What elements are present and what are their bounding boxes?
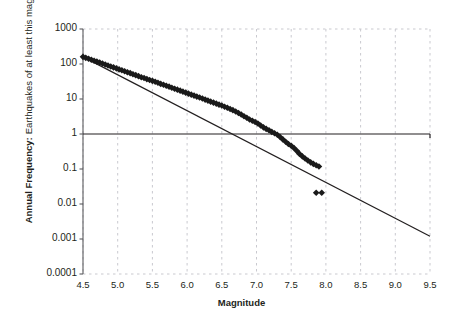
gridlines (83, 29, 430, 274)
plot-canvas (0, 0, 455, 319)
earthquake-frequency-magnitude-chart: Annual Frequency: Earthquakes of at leas… (0, 0, 455, 319)
data-point-marker (318, 189, 325, 196)
data-point-markers (80, 54, 325, 196)
